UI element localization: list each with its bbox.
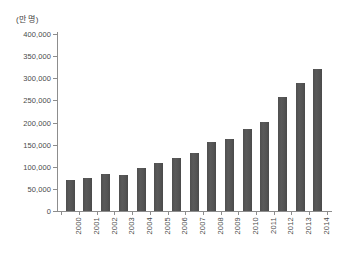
x-axis-tick (274, 211, 275, 215)
x-axis-tick (61, 211, 62, 215)
x-axis-tick-label: 2000 (74, 217, 83, 235)
y-axis-tick (53, 56, 57, 57)
y-axis-tick (53, 78, 57, 79)
y-axis-tick-label: 100,000 (23, 162, 51, 171)
x-axis-tick (150, 211, 151, 215)
y-axis-tick-label: 250,000 (23, 96, 51, 105)
bar (225, 139, 234, 211)
y-axis-tick (53, 34, 57, 35)
x-axis-tick (327, 211, 328, 215)
bar (137, 168, 146, 211)
y-axis-tick-label: 150,000 (23, 140, 51, 149)
bar (190, 153, 199, 211)
x-axis-tick-label: 2010 (251, 217, 260, 235)
y-axis-tick-label: 300,000 (23, 74, 51, 83)
bar (83, 178, 92, 211)
bar (260, 122, 269, 211)
bar (154, 163, 163, 211)
y-axis-tick-label: 200,000 (23, 118, 51, 127)
x-axis-tick (256, 211, 257, 215)
x-axis-tick-label: 2006 (180, 217, 189, 235)
x-axis-tick-label: 2001 (92, 217, 101, 235)
bar (313, 69, 322, 211)
bar (207, 142, 216, 211)
x-axis-tick (185, 211, 186, 215)
bar (172, 158, 181, 211)
y-axis-tick (53, 189, 57, 190)
x-axis-tick (221, 211, 222, 215)
y-axis-tick (53, 167, 57, 168)
x-axis-tick (238, 211, 239, 215)
x-axis-tick (114, 211, 115, 215)
x-axis-tick-label: 2005 (163, 217, 172, 235)
y-axis-tick (53, 145, 57, 146)
y-axis-tick (53, 211, 57, 212)
bar (278, 97, 287, 211)
x-axis-tick (79, 211, 80, 215)
x-axis-tick (309, 211, 310, 215)
bar (243, 129, 252, 211)
y-axis-tick-label: 0 (47, 207, 51, 216)
x-axis-tick-label: 2012 (286, 217, 295, 235)
x-axis-tick-label: 2009 (233, 217, 242, 235)
x-axis-tick-label: 2004 (145, 217, 154, 235)
x-axis-tick-label: 2007 (198, 217, 207, 235)
y-axis-tick-label: 350,000 (23, 52, 51, 61)
bar (101, 174, 110, 211)
y-axis-tick-label: 400,000 (23, 30, 51, 39)
x-axis-tick-label: 2014 (322, 217, 331, 235)
bar (296, 83, 305, 211)
y-axis-tick-label: 50,000 (27, 184, 51, 193)
x-axis-tick (132, 211, 133, 215)
x-axis-tick (291, 211, 292, 215)
y-axis-unit-label: (만 명) (16, 13, 39, 24)
bar-chart: (만 명) 2000200120022003200420052006200720… (0, 0, 340, 254)
x-axis-tick (168, 211, 169, 215)
x-axis: 2000200120022003200420052006200720082009… (57, 211, 332, 253)
bar (66, 180, 75, 211)
x-axis-tick-label: 2008 (216, 217, 225, 235)
x-axis-tick-label: 2003 (127, 217, 136, 235)
x-axis-tick (203, 211, 204, 215)
bar (119, 175, 128, 211)
x-axis-tick-label: 2011 (269, 217, 278, 234)
x-axis-tick-label: 2013 (304, 217, 313, 235)
x-axis-tick (97, 211, 98, 215)
x-axis-tick-label: 2002 (110, 217, 119, 235)
bar-series (57, 34, 332, 211)
y-axis-tick (53, 123, 57, 124)
y-axis-tick (53, 100, 57, 101)
